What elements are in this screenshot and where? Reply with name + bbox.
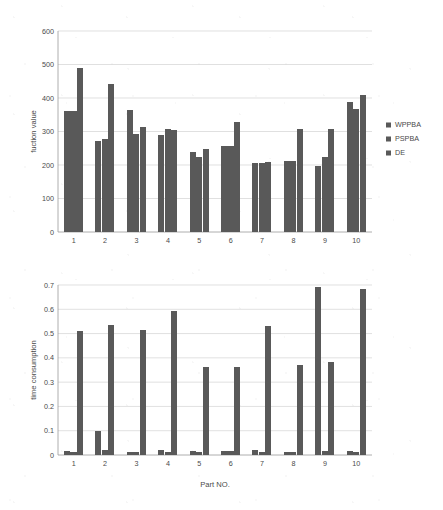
- bar-DE-5: [203, 367, 209, 455]
- bar-PSPBA-6: [227, 451, 233, 455]
- x-tick-label: 7: [260, 236, 264, 245]
- bar-WPPBA-9: [315, 166, 321, 232]
- bar-WPPBA-1: [64, 451, 70, 455]
- x-tick-label: 6: [229, 459, 233, 468]
- y-tick-label: 400: [42, 94, 54, 103]
- y-tick-label: 600: [42, 27, 54, 36]
- bar-WPPBA-2: [95, 431, 101, 455]
- bar-WPPBA-10: [347, 102, 353, 232]
- bar-WPPBA-5: [190, 451, 196, 455]
- bar-WPPBA-3: [127, 452, 133, 455]
- bar-DE-4: [171, 130, 177, 232]
- y-tick-label: 300: [42, 127, 54, 136]
- x-tick-label: 6: [229, 236, 233, 245]
- fuction-value-chart: 010020030040050060012345678910fuction va…: [0, 0, 443, 262]
- bar-PSPBA-7: [259, 452, 265, 455]
- x-tick-label: 4: [166, 236, 170, 245]
- bar-DE-9: [328, 362, 334, 456]
- bar-PSPBA-2: [102, 450, 108, 455]
- x-tick-label: 8: [292, 459, 296, 468]
- bar-DE-3: [140, 330, 146, 455]
- y-tick-label: 0.7: [44, 281, 54, 290]
- bar-PSPBA-4: [165, 129, 171, 232]
- x-tick-label: 8: [292, 236, 296, 245]
- x-tick-label: 2: [103, 459, 107, 468]
- y-tick-label: 0.1: [44, 426, 54, 435]
- bar-DE-6: [234, 122, 240, 232]
- bar-DE-10: [360, 95, 366, 232]
- bar-DE-9: [328, 129, 334, 232]
- bar-DE-4: [171, 311, 177, 455]
- x-tick-label: 7: [260, 459, 264, 468]
- bar-DE-7: [265, 162, 271, 232]
- legend-label-PSPBA: PSPBA: [395, 134, 419, 143]
- bar-WPPBA-2: [95, 141, 101, 232]
- bar-WPPBA-5: [190, 152, 196, 232]
- y-axis-title: time consumption: [29, 340, 38, 400]
- bar-WPPBA-8: [284, 161, 290, 232]
- bar-WPPBA-4: [158, 135, 164, 232]
- y-axis-title: fuction value: [29, 110, 38, 153]
- bar-DE-3: [140, 127, 146, 232]
- y-tick-label: 0.4: [44, 353, 54, 362]
- legend-swatch-WPPBA: [386, 123, 391, 128]
- bar-WPPBA-7: [252, 450, 258, 455]
- bar-WPPBA-10: [347, 451, 353, 455]
- bar-WPPBA-9: [315, 287, 321, 455]
- bar-PSPBA-1: [70, 111, 76, 232]
- y-tick-label: 0.5: [44, 329, 54, 338]
- y-tick-label: 0: [50, 451, 54, 460]
- bar-DE-1: [77, 331, 83, 455]
- y-tick-label: 0.2: [44, 402, 54, 411]
- bar-DE-2: [108, 325, 114, 455]
- bar-PSPBA-6: [227, 146, 233, 232]
- bar-DE-10: [360, 289, 366, 455]
- y-tick-label: 0: [50, 228, 54, 237]
- x-tick-label: 9: [323, 236, 327, 245]
- x-tick-label: 3: [135, 236, 139, 245]
- bar-PSPBA-10: [353, 109, 359, 232]
- time-consumption-chart-svg: 00.10.20.30.40.50.60.712345678910time co…: [0, 258, 443, 510]
- fuction-value-chart-svg: 010020030040050060012345678910fuction va…: [0, 0, 443, 262]
- bar-PSPBA-9: [322, 157, 328, 232]
- legend-swatch-PSPBA: [386, 137, 391, 142]
- bar-WPPBA-3: [127, 110, 133, 232]
- bar-PSPBA-10: [353, 452, 359, 455]
- legend-label-DE: DE: [395, 148, 405, 157]
- x-tick-label: 5: [197, 459, 201, 468]
- bar-PSPBA-5: [196, 452, 202, 455]
- bar-PSPBA-1: [70, 452, 76, 455]
- bar-PSPBA-3: [133, 452, 139, 455]
- bar-PSPBA-3: [133, 134, 139, 232]
- bar-DE-2: [108, 84, 114, 232]
- bar-PSPBA-4: [165, 452, 171, 455]
- bar-DE-6: [234, 367, 240, 455]
- x-tick-label: 2: [103, 236, 107, 245]
- bar-DE-5: [203, 149, 209, 232]
- bar-PSPBA-5: [196, 157, 202, 232]
- x-tick-label: 1: [72, 236, 76, 245]
- figure-page: 010020030040050060012345678910fuction va…: [0, 0, 443, 510]
- bar-DE-8: [297, 129, 303, 232]
- y-tick-label: 100: [42, 194, 54, 203]
- x-tick-label: 10: [352, 236, 360, 245]
- x-tick-label: 5: [197, 236, 201, 245]
- x-tick-label: 3: [135, 459, 139, 468]
- bar-DE-1: [77, 68, 83, 232]
- y-tick-label: 500: [42, 60, 54, 69]
- time-consumption-chart: 00.10.20.30.40.50.60.712345678910time co…: [0, 258, 443, 510]
- y-tick-label: 0.6: [44, 305, 54, 314]
- x-tick-label: 1: [72, 459, 76, 468]
- x-tick-label: 9: [323, 459, 327, 468]
- y-tick-label: 0.3: [44, 378, 54, 387]
- legend-swatch-DE: [386, 151, 391, 156]
- x-axis-title: Part NO.: [200, 480, 230, 489]
- bar-WPPBA-6: [221, 146, 227, 232]
- legend-label-WPPBA: WPPBA: [395, 120, 421, 129]
- bar-PSPBA-2: [102, 139, 108, 232]
- y-tick-label: 200: [42, 161, 54, 170]
- x-tick-label: 10: [352, 459, 360, 468]
- bar-WPPBA-8: [284, 452, 290, 455]
- bar-DE-7: [265, 326, 271, 455]
- bar-WPPBA-4: [158, 450, 164, 455]
